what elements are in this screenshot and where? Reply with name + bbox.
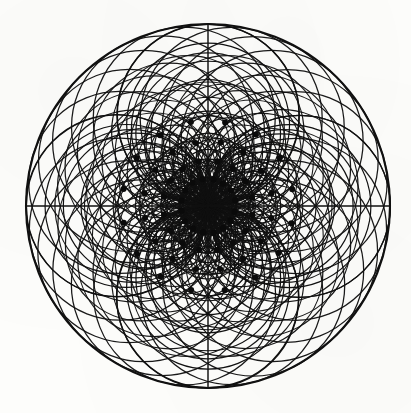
- lattice-dot: [222, 287, 228, 293]
- lattice-dot: [228, 188, 234, 194]
- lattice-dot: [242, 228, 248, 234]
- lattice-dot: [250, 212, 256, 218]
- lattice-dot: [178, 208, 184, 214]
- lattice-dot: [268, 215, 274, 221]
- lattice-dot: [232, 197, 238, 203]
- lattice-dot: [152, 238, 158, 244]
- lattice-dot: [252, 275, 258, 281]
- lattice-dot: [214, 158, 220, 164]
- lattice-dot: [188, 119, 194, 125]
- lattice-dot: [121, 220, 127, 226]
- lattice-dot: [217, 266, 223, 272]
- lattice-dot: [211, 177, 217, 183]
- lattice-dot: [121, 186, 127, 192]
- lattice-dot: [218, 140, 224, 146]
- lattice-dot: [134, 155, 140, 161]
- lattice-dot: [196, 158, 202, 164]
- lattice-dot: [188, 287, 194, 293]
- lattice-dot: [190, 225, 196, 231]
- lattice-dot: [180, 240, 186, 246]
- lattice-dot: [180, 166, 186, 172]
- lattice-dot: [258, 238, 264, 244]
- lattice-dot: [268, 190, 274, 196]
- lattice-dot: [253, 131, 259, 137]
- lattice-dot: [277, 155, 283, 161]
- lattice-dot: [161, 194, 167, 200]
- lattice-dot: [152, 167, 158, 173]
- lattice-dot: [182, 188, 188, 194]
- lattice-dot: [134, 251, 140, 257]
- lattice-dot: [288, 220, 294, 226]
- lattice-dot: [230, 240, 236, 246]
- lattice-dot: [168, 178, 174, 184]
- lattice-dot: [228, 218, 234, 224]
- lattice-dot: [179, 197, 185, 203]
- lattice-dot: [230, 166, 236, 172]
- lattice-dot: [157, 132, 163, 138]
- lattice-dot: [214, 247, 220, 253]
- lattice-dot: [169, 149, 175, 155]
- lattice-dot: [258, 168, 264, 174]
- lattice-dot: [240, 149, 246, 155]
- lattice-dot: [289, 186, 295, 192]
- lattice-dot: [142, 190, 148, 196]
- lattice-dot: [169, 256, 175, 262]
- lattice-dot: [196, 247, 202, 253]
- lattice-dot: [193, 266, 199, 272]
- lattice-dot: [157, 274, 163, 280]
- lattice-dot: [193, 140, 199, 146]
- dipole-grid-svg: [0, 0, 411, 413]
- lattice-dot: [200, 229, 206, 235]
- lattice-dot: [240, 256, 246, 262]
- lattice-dot: [142, 215, 148, 221]
- lattice-dot: [190, 180, 196, 186]
- lattice-dot: [276, 250, 282, 256]
- lattice-dot: [211, 230, 217, 236]
- lattice-dot: [222, 119, 228, 125]
- lattice-dot: [220, 181, 226, 187]
- lattice-dot: [161, 212, 167, 218]
- lattice-dot: [231, 209, 237, 215]
- lattice-dot: [168, 228, 174, 234]
- lattice-dot: [220, 225, 226, 231]
- lattice-dot: [199, 176, 205, 182]
- lattice-dot: [182, 218, 188, 224]
- figure-root: Dipole Coordinate Grid Inversive / dipol…: [0, 0, 411, 413]
- lattice-dot: [249, 195, 255, 201]
- lattice-dot: [242, 178, 248, 184]
